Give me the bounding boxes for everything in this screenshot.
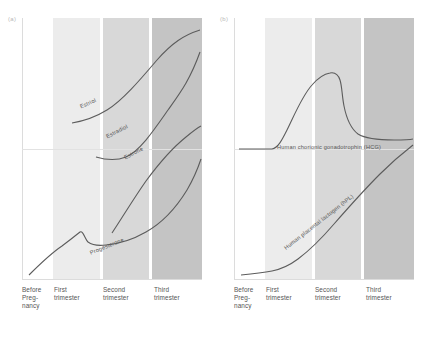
panel-a-tag: (a) xyxy=(8,16,16,22)
x-label-first-trimester: Firsttrimester xyxy=(266,286,311,302)
panel-a-plot-area: Estriol Estradiol Estrone Progesterone xyxy=(22,18,202,280)
x-label-second-trimester: Secondtrimester xyxy=(315,286,361,302)
curve-estrone xyxy=(112,126,201,233)
x-label-third-trimester: Thirdtrimester xyxy=(366,286,412,302)
panel-b-tag: (b) xyxy=(220,16,228,22)
curve-progesterone xyxy=(29,159,201,275)
x-label-second-trimester: Secondtrimester xyxy=(103,286,149,302)
panel-b-x-axis-labels: BeforePreg-nancy Firsttrimester Secondtr… xyxy=(234,286,414,332)
x-label-before-pregnancy: BeforePreg-nancy xyxy=(234,286,264,311)
x-label-before-pregnancy: BeforePreg-nancy xyxy=(22,286,52,311)
curve-estriol xyxy=(72,30,200,123)
panel-a: (a) Estriol Estradiol Estrone Progestero… xyxy=(0,0,213,338)
curve-label-hcg: Human chorionic gonadotrophin (HCG) xyxy=(277,144,381,150)
curve-hcg xyxy=(239,73,413,149)
panel-a-x-axis-labels: BeforePreg-nancy Firsttrimester Secondtr… xyxy=(22,286,202,332)
panel-b-plot-area: Human chorionic gonadotrophin (HCG) Huma… xyxy=(234,18,414,280)
curve-estradiol xyxy=(96,52,200,160)
x-label-third-trimester: Thirdtrimester xyxy=(154,286,200,302)
panel-b: (b) Human chorionic gonadotrophin (HCG) … xyxy=(212,0,425,338)
x-label-first-trimester: Firsttrimester xyxy=(54,286,99,302)
